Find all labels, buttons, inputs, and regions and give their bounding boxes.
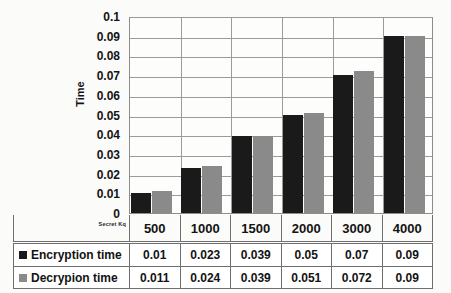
bar-encryption[interactable] bbox=[333, 75, 353, 213]
y-axis-tick-label: 0.08 bbox=[66, 49, 120, 63]
table-value-cell: 0.039 bbox=[230, 267, 281, 288]
table-value-cell: 0.024 bbox=[180, 267, 231, 288]
bar-decryption[interactable] bbox=[253, 136, 273, 213]
bar-encryption[interactable] bbox=[283, 115, 303, 214]
table-value-cell: 0.01 bbox=[130, 244, 180, 266]
y-axis-tick-label: 0.07 bbox=[66, 69, 120, 83]
table-value-cell: 0.07 bbox=[331, 244, 382, 266]
bar-encryption[interactable] bbox=[384, 36, 404, 213]
y-axis-tick-label: 0.06 bbox=[66, 89, 120, 103]
x-axis-category-label: 500 bbox=[130, 215, 180, 241]
table-value-cell: 0.05 bbox=[281, 244, 332, 266]
x-axis-category-label: 2000 bbox=[281, 215, 332, 241]
y-axis-tick-label: 0.01 bbox=[66, 187, 120, 201]
table-row: Encryption time0.010.0230.0390.050.070.0… bbox=[14, 244, 432, 266]
table-value-cell: 0.051 bbox=[281, 267, 332, 288]
x-axis-category-label: 1500 bbox=[230, 215, 281, 241]
series-legend-cell: Decrypion time bbox=[14, 267, 130, 288]
x-axis-category-label: 1000 bbox=[180, 215, 231, 241]
bar-group bbox=[181, 18, 232, 213]
x-axis-category-label: 4000 bbox=[382, 215, 433, 241]
bar-decryption[interactable] bbox=[202, 166, 222, 213]
legend-swatch-encryption bbox=[19, 251, 27, 259]
plot-area bbox=[129, 17, 433, 214]
bar-series-container bbox=[130, 18, 432, 213]
legend-swatch-decryption bbox=[19, 274, 27, 282]
y-axis-tick-label: 0.03 bbox=[66, 148, 120, 162]
bar-decryption[interactable] bbox=[152, 191, 172, 213]
y-axis-tick-label: 0.1 bbox=[66, 10, 120, 24]
x-axis-category-label: 3000 bbox=[331, 215, 382, 241]
table-value-cell: 0.09 bbox=[382, 244, 433, 266]
y-axis-tick-label: 0.05 bbox=[66, 109, 120, 123]
y-axis-tick-label: 0.04 bbox=[66, 128, 120, 142]
bar-group bbox=[231, 18, 282, 213]
series-label: Encryption time bbox=[31, 248, 122, 262]
bar-decryption[interactable] bbox=[405, 36, 425, 213]
table-value-cell: 0.09 bbox=[382, 267, 433, 288]
bar-group bbox=[282, 18, 333, 213]
y-axis-tick-labels: 0.10.090.080.070.060.050.040.030.020.010 bbox=[66, 17, 124, 214]
bar-group bbox=[333, 18, 384, 213]
table-row: Decrypion time0.0110.0240.0390.0510.0720… bbox=[14, 266, 432, 288]
bar-encryption[interactable] bbox=[232, 136, 252, 213]
bar-group bbox=[383, 18, 434, 213]
bar-decryption[interactable] bbox=[354, 71, 374, 213]
chart-figure: Time 0.10.090.080.070.060.050.040.030.02… bbox=[0, 0, 451, 293]
bar-encryption[interactable] bbox=[131, 193, 151, 213]
y-axis-tick-label: 0.09 bbox=[66, 30, 120, 44]
bar-group bbox=[130, 18, 181, 213]
table-value-cell: 0.039 bbox=[230, 244, 281, 266]
table-value-cell: 0.023 bbox=[180, 244, 231, 266]
bar-encryption[interactable] bbox=[181, 168, 201, 213]
x-axis-category-labels: 50010001500200030004000 bbox=[129, 215, 433, 242]
x-axis-header-spacer bbox=[13, 215, 130, 242]
series-legend-cell: Encryption time bbox=[14, 244, 130, 266]
bar-decryption[interactable] bbox=[304, 113, 324, 213]
series-label: Decrypion time bbox=[31, 271, 118, 285]
table-value-cell: 0.011 bbox=[130, 267, 180, 288]
data-table: Encryption time0.010.0230.0390.050.070.0… bbox=[13, 243, 433, 289]
table-value-cell: 0.072 bbox=[331, 267, 382, 288]
y-axis-tick-label: 0.02 bbox=[66, 168, 120, 182]
